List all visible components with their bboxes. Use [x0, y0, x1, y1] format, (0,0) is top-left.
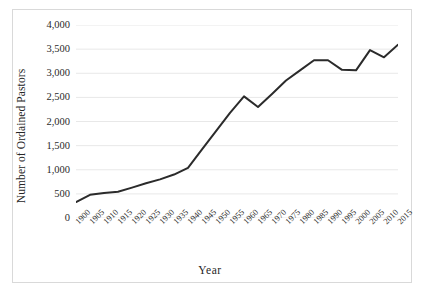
chart-figure: Number of Ordained Pastors 4,0003,5003,0…	[0, 0, 425, 298]
line-chart-svg	[76, 25, 398, 218]
data-series-line	[76, 45, 398, 202]
y-axis-tick-label: 2,500	[28, 92, 70, 102]
y-axis-tick-label: 2,000	[28, 117, 70, 127]
x-axis-tick-labels: 1900190519101915192019251930193519401945…	[76, 219, 398, 263]
y-axis-tick-label: 500	[28, 189, 70, 199]
x-axis-title: Year	[100, 264, 320, 276]
y-axis-tick-label: 1,500	[28, 141, 70, 151]
line-chart-plot-area	[76, 25, 398, 218]
y-axis-tick-label: 4,000	[28, 20, 70, 30]
y-axis-tick-label: 3,500	[28, 44, 70, 54]
y-axis-tick-label: 0	[28, 213, 70, 223]
y-axis-tick-label: 3,000	[28, 68, 70, 78]
y-axis-tick-label: 1,000	[28, 165, 70, 175]
y-axis-tick-labels: 4,0003,5003,0002,5002,0001,5001,0005000	[26, 0, 70, 298]
